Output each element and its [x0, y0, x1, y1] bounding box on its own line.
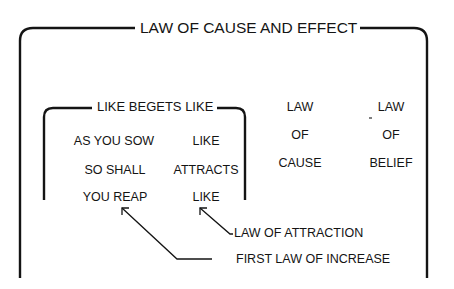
belief-column-line-3: BELIEF — [369, 156, 412, 170]
outer-frame-right — [360, 28, 427, 278]
inner-frame-right — [217, 108, 245, 200]
annotation-first-law-of-increase: FIRST LAW OF INCREASE — [236, 252, 390, 266]
cause-column-line-3: CAUSE — [278, 156, 321, 170]
inner-right-line-1: LIKE — [192, 134, 219, 148]
cause-column-line-2: OF — [291, 128, 308, 142]
cause-column-line-1: LAW — [287, 100, 314, 114]
inner-left-line-1: AS YOU SOW — [74, 134, 154, 148]
diagram-lines — [0, 0, 454, 289]
inner-left-line-3: YOU REAP — [83, 190, 148, 204]
arrow-law-of-attraction — [200, 208, 233, 234]
inner-frame-left — [44, 108, 92, 200]
inner-right-line-3: LIKE — [192, 190, 219, 204]
diagram-title: LAW OF CAUSE AND EFFECT — [140, 19, 357, 37]
annotation-law-of-attraction: LAW OF ATTRACTION — [234, 226, 363, 240]
outer-frame — [20, 28, 135, 278]
arrow-first-law-of-increase — [122, 208, 212, 259]
belief-column-line-1: LAW — [378, 100, 405, 114]
inner-box-title: LIKE BEGETS LIKE — [97, 100, 213, 114]
inner-left-line-2: SO SHALL — [84, 163, 145, 177]
inner-right-line-2: ATTRACTS — [173, 163, 238, 177]
belief-column-line-2: OF — [382, 128, 399, 142]
